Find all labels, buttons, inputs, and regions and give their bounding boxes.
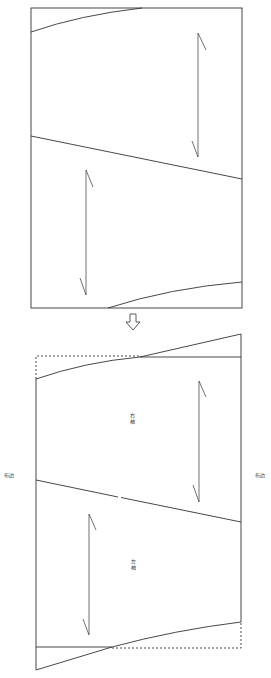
label-left-sleeve: 左袖: [130, 558, 136, 570]
dashed-corner-bottom: [112, 622, 241, 648]
down-arrow-icon: [126, 314, 140, 330]
grain-arrow-left-after: [83, 514, 96, 635]
bottom-curve-before: [108, 282, 242, 308]
grain-arrow-left-before: [80, 170, 93, 295]
label-selvedge-left: 布边: [4, 472, 14, 478]
bottom-curve-after: [36, 622, 241, 670]
pattern-diagram: [0, 0, 271, 678]
fabric-outline-before: [31, 8, 242, 308]
top-curve-after: [36, 334, 241, 379]
grain-arrow-right-before: [192, 33, 206, 157]
grain-arrow-right-after: [193, 381, 206, 502]
label-right-sleeve: 右袖: [129, 412, 135, 424]
middle-seam-before: [31, 136, 242, 179]
top-curve-before: [31, 8, 142, 32]
dashed-corner-top: [36, 356, 140, 379]
label-selvedge-right: 布边: [255, 472, 265, 478]
middle-seam-after: [36, 480, 241, 522]
